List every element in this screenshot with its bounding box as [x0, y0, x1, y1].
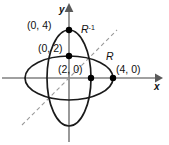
point-marker-0-2	[66, 53, 72, 59]
point-marker-4-0	[110, 75, 116, 81]
label-point-0-2: (0, 2)	[38, 42, 63, 54]
label-point-0-4: (0, 4)	[27, 19, 52, 31]
figure-canvas: (0, 4) (0, 2) (2, 0) (4, 0) R R-1 y x	[0, 0, 169, 145]
point-marker-2-0	[88, 75, 94, 81]
label-curve-r-inverse: R-1	[81, 23, 95, 35]
label-point-4-0: (4, 0)	[116, 63, 141, 75]
label-curve-r-inverse-exponent: -1	[89, 24, 95, 31]
y-axis-arrowhead	[65, 3, 74, 12]
label-curve-r: R	[106, 50, 114, 62]
label-axis-x: x	[153, 81, 160, 92]
point-marker-0-4	[66, 27, 72, 33]
label-point-2-0: (2, 0)	[58, 63, 83, 75]
label-axis-y: y	[58, 4, 65, 15]
relation-inverse-figure: (0, 4) (0, 2) (2, 0) (4, 0) R R-1 y x	[0, 0, 169, 145]
